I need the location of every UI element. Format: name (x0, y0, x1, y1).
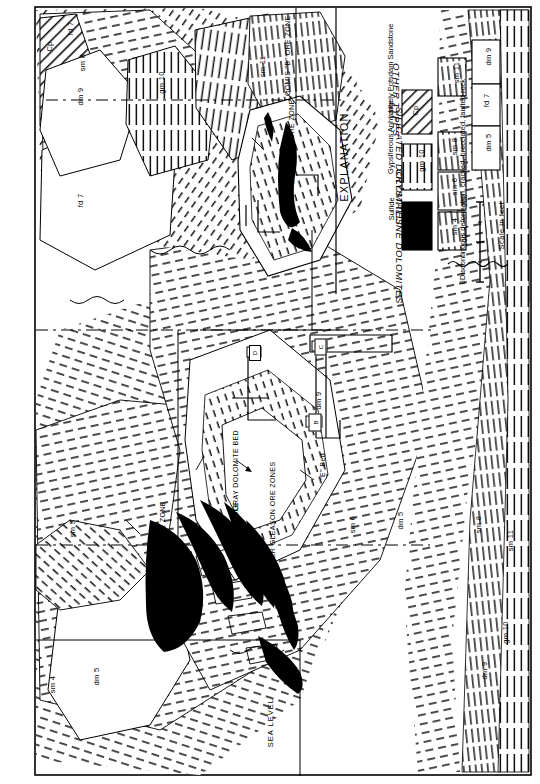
legend-label-sulfide: Sulfide (387, 187, 397, 231)
unit-code-sm8-a: sm 8 (78, 54, 87, 71)
legend-label-deformation: Discontinuous deformation, cracked, brec… (458, 214, 468, 280)
unit-code-cp: Cp (45, 41, 54, 51)
legend-code-dm9: dm 9 (484, 48, 493, 66)
unit-code-sm11-b: sm 11 (506, 530, 515, 551)
datum-label-sea-level: SEA LEVEL (266, 692, 275, 754)
ore-zone-label-lower-gleason: LOWER GLEASON ORE ZONES (269, 489, 278, 575)
unit-code-gm10-b: gm 10 (501, 621, 510, 643)
unit-code-dm5-b: dm 5 (396, 512, 405, 530)
ore-zone-label-loomis-b: LOOMIS "B" ORE ZONE (284, 20, 293, 100)
geologic-cross-section-sheet: LOOMIS "B" ORE ZONE LOOMIS "A" ORE ZONE … (0, 0, 540, 784)
level-marker-b: B (309, 414, 322, 432)
level-marker-d: D (249, 345, 261, 361)
unit-code-dm9-b: dm 9 (480, 662, 489, 680)
unit-code-dm5-a: dm 5 (92, 668, 101, 686)
unit-code-dm9-c: dm 9 (314, 392, 323, 410)
legend-label-gypsiferous-anhydrite: Gypsiferous Anhydrite (386, 116, 396, 174)
explanation-panel: EXPLANATION OTHER TYPES SILICATED DOLOMI… (330, 6, 532, 296)
legend-code-dm5: dm 5 (484, 134, 493, 152)
legend-code-gm10: gm 10 (417, 149, 426, 171)
unit-code-sm5: sm 5 (68, 520, 77, 537)
unit-code-fd7-a: fd 7 (66, 22, 75, 36)
level-marker-c: C (315, 339, 327, 356)
unit-code-dm9-a: dm 9 (76, 88, 85, 106)
bed-label-gray-dolomite: GRAY DOLOMITE BED (232, 424, 241, 516)
ore-zone-label-upper-gleason: UPPER GLEASON ORE ZONE (159, 512, 168, 608)
explanation-title: EXPLANATION (289, 145, 399, 169)
unit-code-sm8-b: sm 8 (474, 516, 483, 533)
legend-code-fd7: fd 7 (482, 94, 491, 108)
scale-caption: Scale in feet (497, 196, 506, 250)
legend-code-cp: Cp (411, 105, 420, 115)
unit-code-sm6: sm 6 (348, 516, 357, 533)
unit-code-sm11-a: sm 11 (258, 56, 267, 77)
scale-tick-0: 0 (458, 280, 467, 284)
unit-code-gm10-a: gm 10 (157, 71, 166, 93)
unit-code-sm4: sm 4 (48, 676, 57, 693)
scale-tick-200: 200 (460, 194, 469, 207)
bed-label-e-bed: "E" Bed (319, 443, 328, 489)
unit-code-fd7-b: fd 7 (76, 194, 85, 208)
scale-tick-100: 100 (460, 234, 469, 247)
